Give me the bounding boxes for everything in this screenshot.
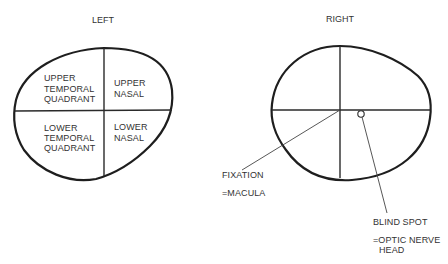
right-visual-field: RIGHT FIXATION =MACULA BLIND SPOT =OPTIC… [222, 14, 443, 255]
right-field-outline [272, 46, 431, 180]
lower-nasal-quadrant-label: LOWER NASAL [114, 122, 150, 143]
left-horizontal-meridian [15, 110, 172, 111]
blind-spot-label: BLIND SPOT =OPTIC NERVE HEAD [373, 217, 443, 255]
left-field-outline [14, 48, 172, 180]
blind-spot-pointer-line [362, 117, 387, 213]
blind-spot-marker [358, 111, 364, 117]
left-visual-field: LEFT UPPER TEMPORAL QUADRANT UPPER NASAL… [14, 15, 172, 180]
lower-temporal-quadrant-label: LOWER TEMPORAL QUADRANT [44, 123, 97, 153]
left-field-title: LEFT [92, 15, 115, 25]
upper-temporal-quadrant-label: UPPER TEMPORAL QUADRANT [44, 73, 97, 104]
upper-nasal-quadrant-label: UPPER NASAL [114, 78, 148, 99]
visual-field-diagram: LEFT UPPER TEMPORAL QUADRANT UPPER NASAL… [0, 0, 448, 264]
fixation-pointer-line [242, 110, 340, 170]
right-field-title: RIGHT [326, 14, 355, 24]
fixation-label: FIXATION =MACULA [222, 170, 266, 198]
